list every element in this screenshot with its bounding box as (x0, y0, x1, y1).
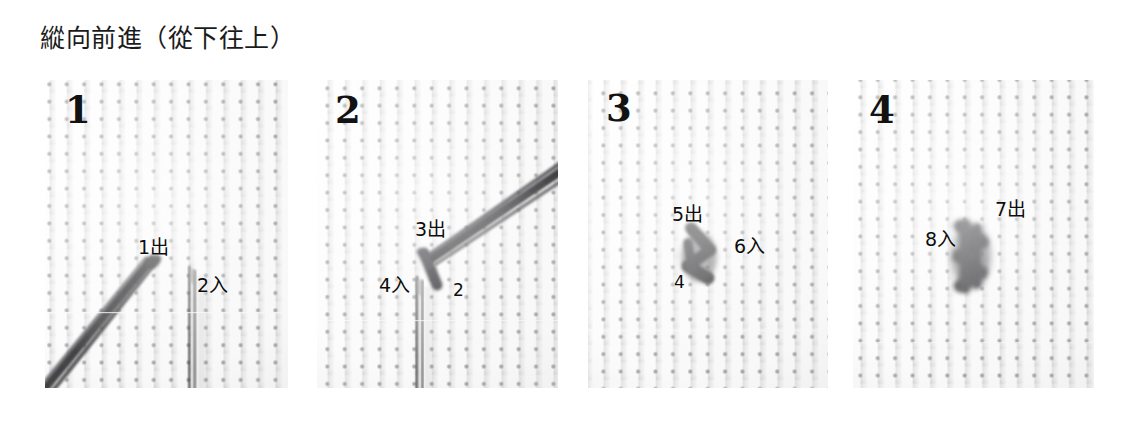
stitch-label-3-out: 3出 (415, 220, 446, 239)
stitch-label-2-in: 2入 (197, 276, 228, 295)
stitch-label-8-in: 8入 (925, 230, 956, 249)
step-panel-2: 2 3出 4入 2 (317, 80, 558, 388)
stitch-label-2: 2 (453, 282, 464, 299)
step-panel-4: 4 7出 8入 (853, 80, 1094, 388)
step-number-2: 2 (335, 92, 361, 129)
step-panel-1: 1 1出 2入 (45, 80, 288, 388)
stitch-label-4: 4 (674, 274, 685, 291)
step-number-1: 1 (65, 92, 91, 129)
step-panel-3: 3 5出 6入 4 (588, 80, 828, 388)
stitch-label-6-in: 6入 (734, 237, 765, 256)
step-number-3: 3 (606, 90, 632, 127)
stitch-label-1-out: 1出 (138, 238, 169, 257)
stitch-label-4-in: 4入 (379, 276, 410, 295)
stitch-label-7-out: 7出 (995, 200, 1026, 219)
step-number-4: 4 (869, 92, 895, 129)
step-panel-row: 1 1出 2入 (0, 0, 1127, 433)
stitch-label-5-out: 5出 (672, 205, 703, 224)
